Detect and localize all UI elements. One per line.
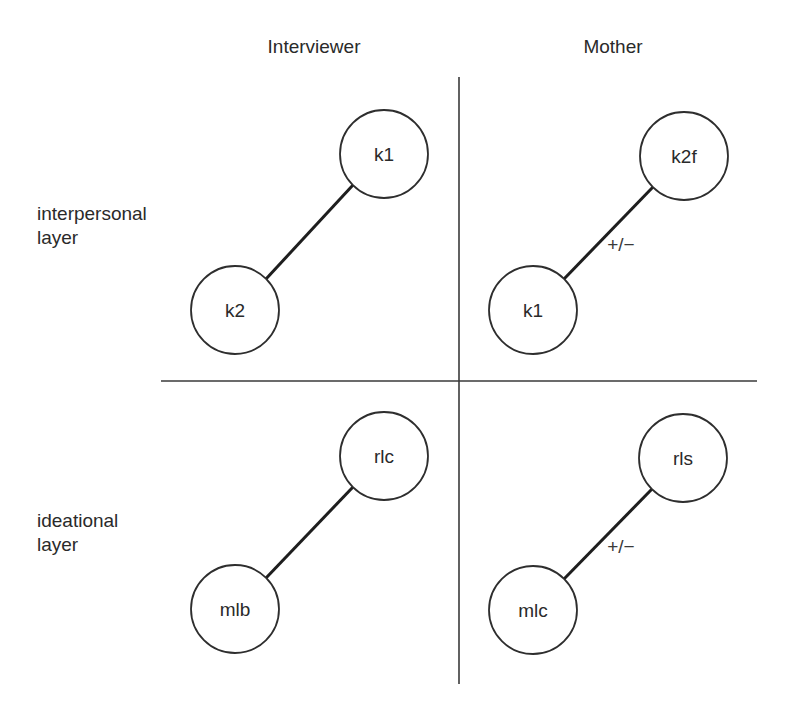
node-label-mlc: mlc [518, 600, 548, 621]
edge-label-plus-minus: +/− [607, 234, 634, 255]
edge-label-plus-minus: +/− [607, 536, 634, 557]
row-label-interpersonal-line2: layer [37, 227, 79, 248]
node-label-k2f: k2f [671, 146, 697, 167]
node-label-k2: k2 [225, 300, 245, 321]
row-label-ideational: ideational layer [37, 510, 118, 555]
quadrant-diagram: Interviewer Mother interpersonal layer i… [0, 0, 788, 708]
quadrant-interviewer-ideational: rlc mlb [191, 412, 428, 653]
row-label-interpersonal-line1: interpersonal [37, 203, 147, 224]
quadrant-interviewer-interpersonal: k1 k2 [191, 110, 428, 354]
column-header-mother: Mother [583, 36, 643, 57]
quadrant-mother-ideational: rls mlc +/− [489, 414, 727, 654]
node-label-rlc: rlc [374, 446, 394, 467]
node-label-mlb: mlb [220, 599, 251, 620]
edge-k1-k2 [266, 185, 353, 279]
quadrant-mother-interpersonal: k2f k1 +/− [489, 112, 728, 354]
row-label-ideational-line2: layer [37, 534, 79, 555]
row-label-ideational-line1: ideational [37, 510, 118, 531]
edge-rlc-mlb [266, 487, 353, 578]
node-label-k1-mother: k1 [523, 300, 543, 321]
row-label-interpersonal: interpersonal layer [37, 203, 147, 248]
node-label-rls: rls [673, 448, 693, 469]
edge-k2f-k1 [564, 187, 653, 279]
node-label-k1: k1 [374, 144, 394, 165]
edge-rls-mlc [564, 489, 652, 579]
column-header-interviewer: Interviewer [268, 36, 362, 57]
